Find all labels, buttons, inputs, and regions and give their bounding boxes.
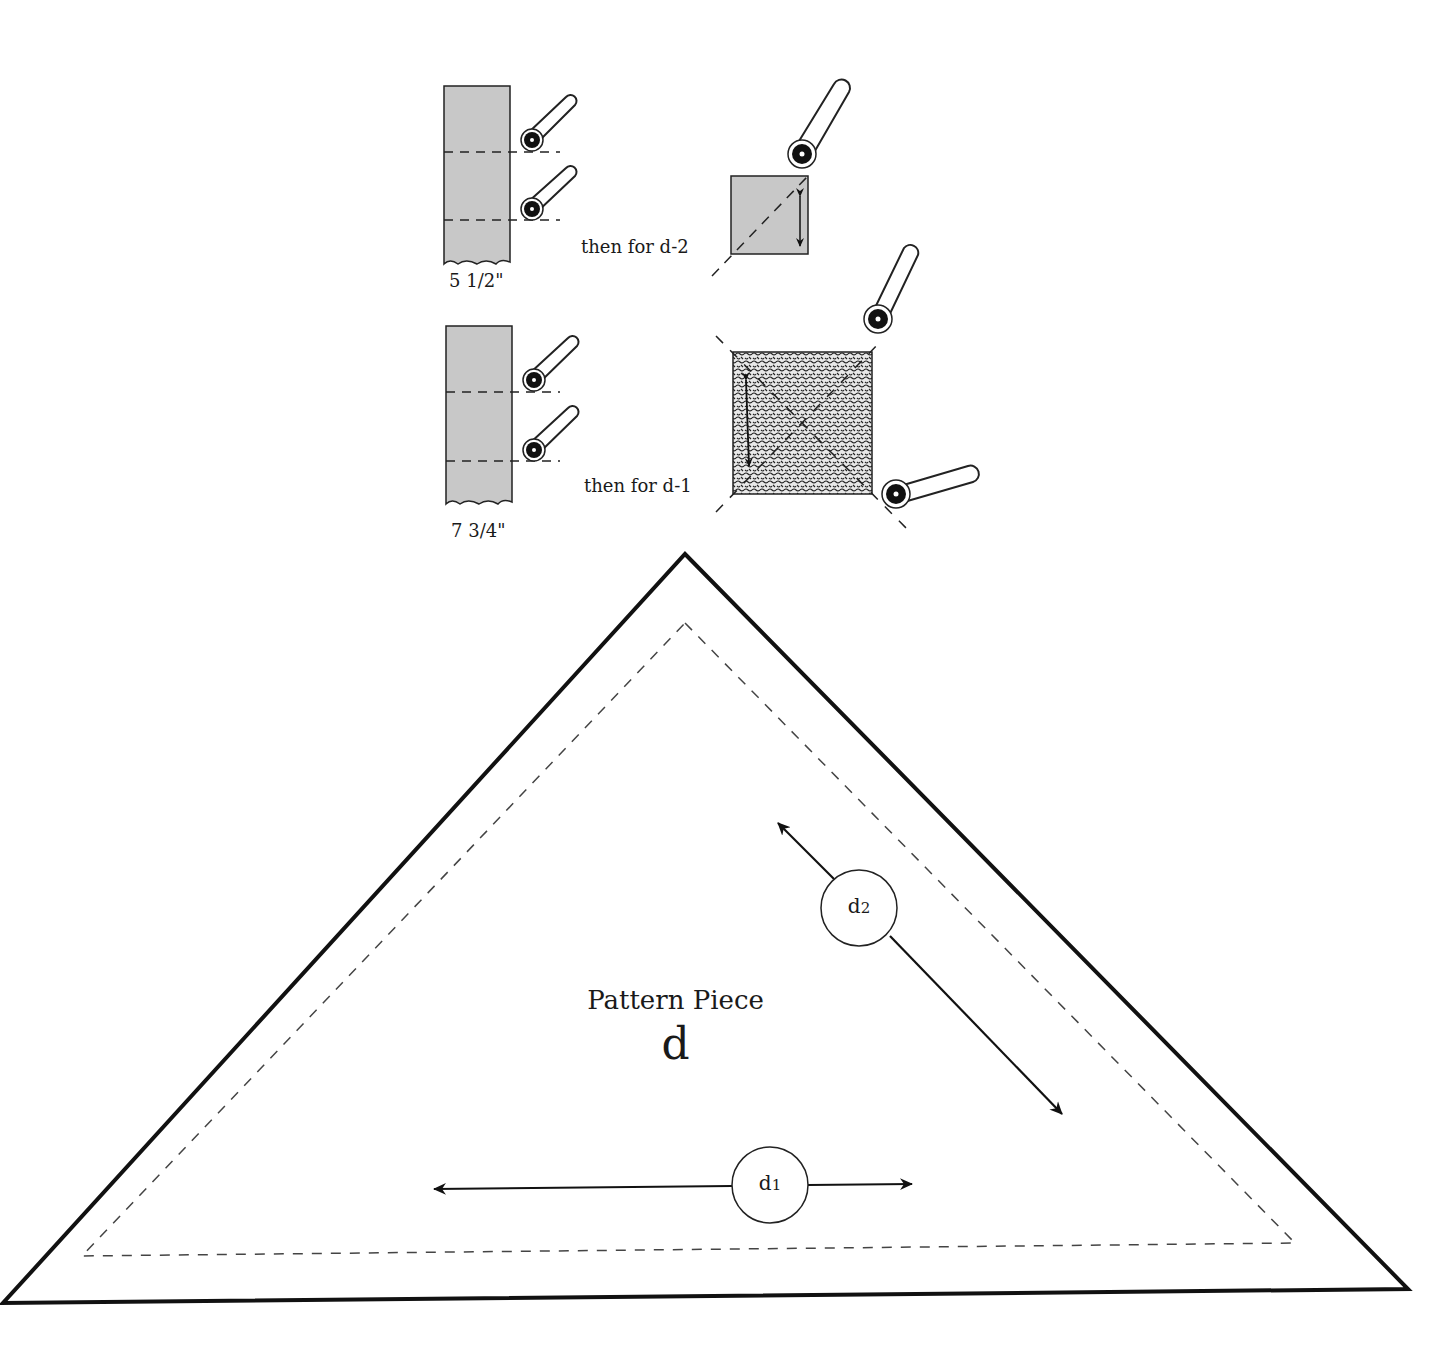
rotary-cutter-icon (523, 406, 579, 461)
square-d1-cut (716, 336, 912, 534)
rotary-cutter-icon (864, 245, 918, 333)
rotary-cutter-icon (788, 80, 850, 169)
step-instruction-label: then for d-2 (581, 236, 689, 257)
grainline-label-d1: d1 (732, 1171, 808, 1195)
rotary-cutter-icon (882, 466, 979, 508)
strip-width-label: 7 3/4" (451, 520, 505, 541)
rotary-cutter-icon (521, 95, 577, 151)
pattern-diagram (0, 0, 1451, 1369)
step-instruction-label: then for d-1 (584, 475, 692, 496)
strip-width-label: 5 1/2" (449, 270, 503, 291)
rotary-cutter-icon (523, 336, 579, 391)
grainline-label-sub: 2 (861, 899, 871, 917)
grainline-label-main: d (848, 894, 861, 918)
fabric-strip-5-1-2 (444, 86, 560, 264)
grainline-label-main: d (759, 1171, 772, 1195)
pattern-piece-letter: d (0, 1018, 1351, 1069)
pattern-piece-d-triangle (3, 554, 1408, 1303)
grainline-label-sub: 1 (772, 1176, 782, 1194)
pattern-piece-title: Pattern Piece (0, 985, 1351, 1015)
grainline-d1 (434, 1147, 912, 1223)
square-d2-cut (712, 176, 808, 276)
rotary-cutter-icon (521, 166, 577, 220)
grainline-d2 (778, 823, 1062, 1114)
grainline-label-d2: d2 (821, 894, 897, 918)
fabric-strip-7-3-4 (446, 326, 560, 504)
